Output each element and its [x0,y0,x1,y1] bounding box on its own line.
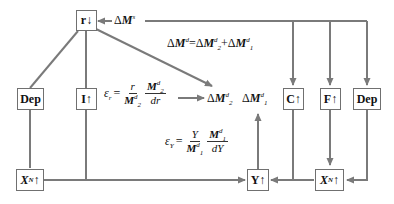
node-label: Dep [20,92,41,107]
superscript: d [260,91,264,99]
numerator: r [129,80,137,94]
depreciation-node-right: Dep [353,88,381,110]
money-demand-m2: ΔMd2 [207,91,232,106]
arrow-up-icon: ↑ [34,173,40,188]
fraction-2: Md1 dY [207,128,228,155]
variable: M [215,91,226,105]
node-label: Y [251,173,260,188]
denominator: Md1 [184,142,205,155]
variable: M [175,36,186,50]
arrow-down-icon: ↓ [86,13,92,28]
node-label: C [286,92,295,107]
delta-symbol: Δ [167,36,175,50]
output-node: Y↑ [247,169,269,191]
plus-sign: + [221,36,228,50]
node-label: X [320,173,328,188]
subscript: 2 [229,99,233,107]
equals-sign: = [189,36,196,50]
investment-node: I↑ [76,88,97,110]
denominator: dr [149,94,163,107]
subscript: 1 [264,99,268,107]
equals-sign: = [113,86,120,101]
epsilon-symbol: εr [104,86,111,101]
numerator: Y [190,128,200,142]
node-label: Dep [357,92,378,107]
net-exports-node-left: XN↑ [16,169,44,191]
fraction-1: Y Md1 [184,128,205,155]
subscript: 1 [250,44,254,52]
superscript: d [225,91,229,99]
delta-symbol: Δ [242,91,250,105]
f-node: F↑ [320,88,341,110]
epsilon-symbol: εY [165,134,174,149]
delta-symbol: Δ [114,13,122,27]
money-supply-label: ΔMs [114,13,135,28]
interest-elasticity-formula: εr = r Md2 Md2 dr [104,80,166,107]
fraction-2: Md2 dr [145,80,166,107]
money-demand-equation: ΔMd=ΔMd2+ΔMd1 [167,36,253,51]
arrow-up-icon: ↑ [295,92,301,107]
superscript: s [132,13,135,21]
arrow-up-icon: ↑ [86,92,92,107]
income-elasticity-formula: εY = Y Md1 Md1 dY [165,128,228,155]
delta-symbol: Δ [207,91,215,105]
arrow-up-icon: ↑ [331,92,337,107]
arrow-up-icon: ↑ [259,173,265,188]
variable: M [203,36,214,50]
variable: M [122,13,133,27]
numerator: Md2 [145,80,166,94]
net-exports-node-right: XN↑ [315,169,344,191]
money-demand-m1: ΔMd1 [242,91,267,106]
arrow-up-icon: ↑ [333,173,339,188]
variable: M [250,91,261,105]
superscript: d [214,36,218,44]
interest-rate-node: r↓ [76,10,97,31]
equals-sign: = [176,134,183,149]
delta-symbol: Δ [228,36,236,50]
node-label: F [324,92,331,107]
numerator: Md1 [207,128,228,142]
superscript: d [246,36,250,44]
fraction-1: r Md2 [122,80,143,107]
denominator: Md2 [122,94,143,107]
consumption-node: C↑ [283,88,304,110]
depreciation-node-left: Dep [17,88,44,110]
variable: M [236,36,247,50]
denominator: dY [210,142,226,155]
